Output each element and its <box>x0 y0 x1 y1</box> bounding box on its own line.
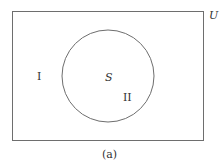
region-ii-label: II <box>123 91 132 104</box>
set-s-label: S <box>105 71 113 84</box>
caption: (a) <box>102 148 117 161</box>
region-i-label: I <box>37 70 41 83</box>
universe-label: U <box>209 9 219 22</box>
venn-diagram: U I S II (a) <box>0 0 223 168</box>
